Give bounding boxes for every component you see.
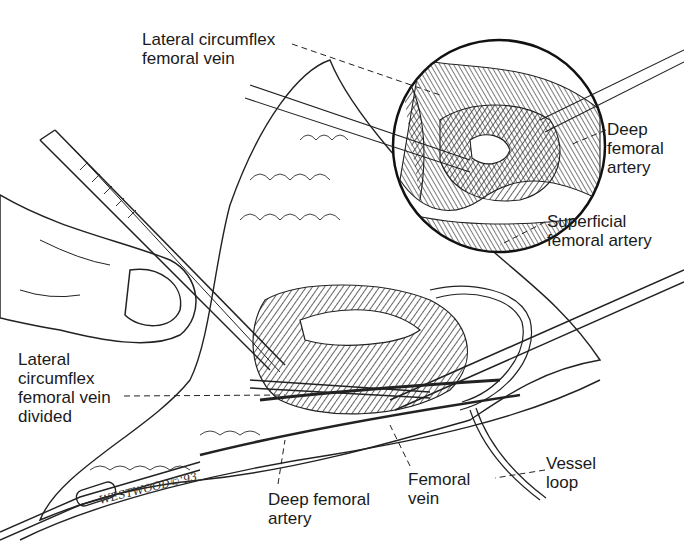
- label-lateral-circumflex-femoral-vein-divided: Lateral circumflex femoral vein divided: [18, 350, 111, 426]
- label-deep-femoral-artery-inset: Deep femoral artery: [607, 120, 664, 177]
- label-deep-femoral-artery: Deep femoral artery: [268, 490, 370, 528]
- figure-canvas: Lateral circumflex femoral vein Deep fem…: [0, 0, 684, 546]
- label-lateral-circumflex-femoral-vein: Lateral circumflex femoral vein: [142, 30, 275, 68]
- label-vessel-loop: Vessel loop: [546, 454, 596, 492]
- label-superficial-femoral-artery: Superficial femoral artery: [547, 212, 652, 250]
- vessels: [200, 285, 520, 455]
- forceps-hatching: [80, 162, 136, 218]
- thumb: [0, 195, 196, 343]
- label-femoral-vein: Femoral vein: [408, 470, 470, 508]
